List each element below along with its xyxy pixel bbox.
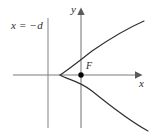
- y-axis-arrow-icon: [77, 8, 84, 16]
- x-axis-label: x: [139, 78, 144, 89]
- parabola-curve: [60, 21, 148, 131]
- directrix-equation-label: x = −d: [11, 20, 43, 31]
- focus-label: F: [86, 61, 92, 71]
- parabola-figure: x = −d y x F: [0, 0, 155, 138]
- focus-point-marker: [78, 72, 83, 77]
- y-axis-label: y: [71, 4, 76, 15]
